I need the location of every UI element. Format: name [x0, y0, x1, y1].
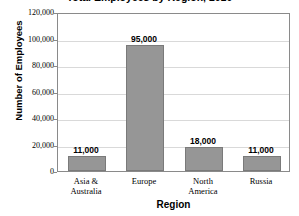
y-axis-tick-label: 60,000 — [2, 89, 54, 97]
y-axis-tick-label: 80,000 — [2, 62, 54, 70]
x-axis-category-line: Russia — [221, 176, 299, 186]
y-axis-tick-label: 100,000 — [2, 36, 54, 44]
y-axis-tick-label: 40,000 — [2, 115, 54, 123]
x-axis-category-line: Australia — [46, 186, 126, 196]
x-axis-title: Region — [57, 199, 290, 210]
y-axis-tick-label: 120,000 — [2, 9, 54, 17]
y-axis-tick-label: 0 — [2, 168, 54, 176]
bar — [68, 156, 106, 171]
y-axis-tick-mark — [53, 172, 57, 173]
x-axis-category-label: Russia — [221, 176, 299, 186]
bar-chart-figure: Total Employees by Region, 2010 Number o… — [0, 0, 299, 216]
bar — [185, 147, 223, 171]
bar — [243, 156, 281, 171]
gridline — [58, 94, 289, 95]
bar-value-label: 95,000 — [104, 35, 184, 44]
bar — [126, 45, 164, 171]
x-axis-category-line: America — [163, 186, 243, 196]
gridline — [58, 67, 289, 68]
bar-value-label: 18,000 — [163, 137, 243, 146]
bar-value-label: 11,000 — [221, 146, 299, 155]
bar-value-label: 11,000 — [46, 146, 126, 155]
gridline — [58, 120, 289, 121]
